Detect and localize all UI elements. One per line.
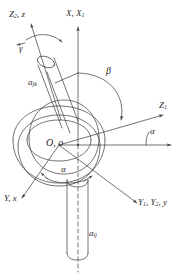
label-member-lower: aij — [89, 229, 97, 239]
axis-line-y1y2y — [59, 145, 137, 203]
label-axis-y1-y2-y: Y1, Y2, y — [138, 198, 167, 208]
label-axis-z2-z: Z2, z — [9, 10, 25, 20]
label-angle-gamma: γ — [19, 44, 23, 53]
beta-chord — [55, 73, 78, 83]
axis-line-z1 — [59, 115, 163, 145]
label-angle-alpha-bottom: α — [61, 165, 66, 174]
lower-rod-bottom-cap — [67, 253, 88, 260]
figure-canvas: Z2, z X, X1 Z1 Y, x Y1, Y2, y O, o γ β α… — [0, 0, 181, 275]
alpha-angle-arc-right — [146, 132, 149, 145]
beta-angle-arc — [78, 73, 122, 120]
label-angle-beta: β — [106, 66, 111, 76]
upper-rod-right-edge — [54, 58, 78, 121]
label-axis-y-x: Y, x — [4, 194, 17, 203]
upper-rod-left-edge — [38, 65, 62, 128]
label-axis-z1: Z1 — [159, 101, 167, 111]
label-angle-alpha-right: α — [150, 127, 155, 136]
axis-line-yx — [22, 145, 59, 198]
lower-rod-top-cap — [67, 180, 88, 187]
label-origin: O, o — [46, 138, 63, 148]
ring-outer-top — [13, 106, 105, 140]
label-member-upper: ajk — [28, 78, 37, 88]
gamma-rotation-arc — [26, 35, 62, 42]
alpha-arrow-left — [41, 173, 48, 179]
origin-point — [77, 144, 79, 146]
label-axis-x-x1: X, X1 — [66, 9, 84, 19]
